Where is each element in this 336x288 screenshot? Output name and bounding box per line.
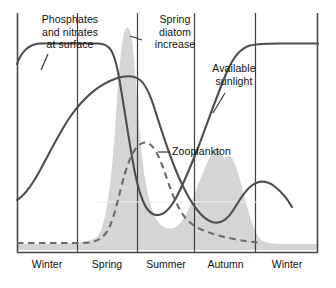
x-tick-summer: Summer [137, 258, 195, 270]
x-tick-winter-2: Winter [256, 258, 318, 270]
diatom-leader [130, 36, 142, 40]
sunlight-leader [213, 93, 225, 113]
annotation-leader-lines [0, 0, 336, 288]
x-tick-spring: Spring [77, 258, 137, 270]
x-tick-autumn: Autumn [195, 258, 256, 270]
nutrients-leader [41, 54, 48, 70]
x-tick-winter-1: Winter [17, 258, 77, 270]
